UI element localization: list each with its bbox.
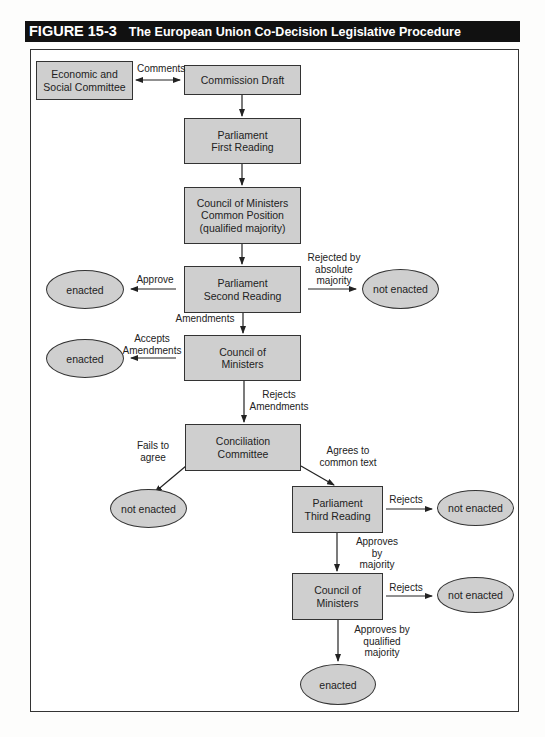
edge-label-rejects-council: Rejects [384,582,428,594]
edge-label-approve: Approve [133,274,177,286]
outcome-not-enacted-fails: not enacted [110,489,187,528]
edge-label-comments: Comments [137,63,181,75]
outcome-not-enacted-absolute: not enacted [362,269,439,309]
node-conciliation-committee: Conciliation Committee [185,424,301,471]
node-council-of-ministers: Council of Ministers [184,335,301,381]
edge-label-fails-to-agree: Fails to agree [131,440,175,463]
edge-label-rejected-absolute: Rejected by absolute majority [300,252,368,287]
edge-label-rejects-amendments: Rejects Amendments [246,389,312,412]
node-council-common-position: Council of Ministers Common Position (qu… [184,187,301,244]
edge-label-accepts-amendments: Accepts Amendments [120,333,184,356]
edge-label-amendments: Amendments [172,313,238,325]
node-council-of-ministers-final: Council of Ministers [292,573,383,620]
node-parliament-first-reading: Parliament First Reading [184,118,301,164]
node-economic-social-committee: Economic and Social Committee [36,61,133,100]
outcome-enacted-accepts: enacted [46,339,124,378]
outcome-not-enacted-council: not enacted [437,577,514,613]
node-parliament-second-reading: Parliament Second Reading [184,266,301,313]
outcome-enacted-final: enacted [300,664,376,705]
edge-label-agrees-common-text: Agrees to common text [316,445,380,468]
node-commission-draft: Commission Draft [184,65,301,95]
edge-label-approves-qualified: Approves by qualified majority [350,624,414,659]
edge-label-rejects-third: Rejects [384,494,428,506]
edge-label-approves-majority: Approves by majority [350,536,404,571]
outcome-not-enacted-third: not enacted [437,490,514,526]
outcome-enacted-approve: enacted [46,270,124,309]
node-parliament-third-reading: Parliament Third Reading [292,486,383,533]
